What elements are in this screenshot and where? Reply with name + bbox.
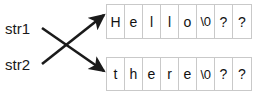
char-cell-unused: ? (233, 58, 251, 90)
char-cell-null-terminator: \0 (197, 5, 215, 38)
arrow-str2-to-hello (42, 15, 104, 64)
char-cell: e (179, 58, 197, 90)
char-cell-unused: ? (215, 58, 233, 90)
char-cell-unused: ? (215, 5, 233, 38)
char-cell: l (143, 5, 161, 38)
char-cell: r (161, 58, 179, 90)
char-cell: e (143, 58, 161, 90)
arrow-str1-to-there (42, 28, 104, 71)
pointer-label-str2: str2 (5, 57, 30, 72)
diagram-canvas: str1 str2 H e l l o \0 ? ? t h e r e \0 … (0, 0, 254, 93)
char-array-there: t h e r e \0 ? ? (106, 57, 252, 91)
char-cell-unused: ? (233, 5, 251, 38)
char-cell: t (107, 58, 125, 90)
char-cell: l (161, 5, 179, 38)
char-cell: o (179, 5, 197, 38)
char-cell-null-terminator: \0 (197, 58, 215, 90)
pointer-label-str1: str1 (5, 21, 30, 36)
char-cell: e (125, 5, 143, 38)
char-array-hello: H e l l o \0 ? ? (106, 4, 252, 39)
char-cell: H (107, 5, 125, 38)
char-cell: h (125, 58, 143, 90)
